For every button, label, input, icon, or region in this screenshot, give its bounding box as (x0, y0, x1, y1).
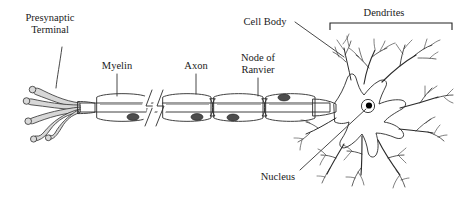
myelin-segment (97, 94, 147, 122)
schwann-cell-nucleus (191, 114, 203, 121)
label-cell-body: Cell Body (244, 16, 288, 27)
neuron-diagram-canvas: Presynaptic Terminal Myelin Axon Node of… (0, 0, 458, 202)
label-node-of-ranvier-line2: Ranvier (241, 64, 275, 75)
schwann-cell-nucleus (278, 94, 290, 101)
dendrites-bracket (330, 23, 452, 30)
dendrite-tree (294, 34, 453, 188)
label-axon: Axon (184, 60, 208, 71)
terminal-bouton (23, 98, 30, 105)
terminal-bouton (29, 86, 36, 93)
label-dendrites: Dendrites (364, 7, 405, 18)
terminal-bouton (30, 136, 36, 142)
nucleus-dot (366, 102, 372, 108)
axon-hillock (313, 99, 336, 116)
terminal-bouton (45, 135, 51, 141)
myelin-segment (214, 94, 263, 122)
myelin-segment (163, 94, 211, 122)
myelin-segment (266, 94, 315, 122)
cell-body-soma (334, 74, 406, 157)
neuron-diagram-figure: Presynaptic Terminal Myelin Axon Node of… (0, 0, 458, 202)
label-myelin: Myelin (102, 60, 133, 71)
terminal-bouton (25, 118, 32, 125)
axon-break-mark (141, 90, 168, 126)
label-presynaptic-terminal-line1: Presynaptic (26, 12, 75, 23)
label-nucleus: Nucleus (261, 171, 295, 182)
label-presynaptic-terminal-line2: Terminal (31, 24, 69, 35)
label-node-of-ranvier-line1: Node of (241, 52, 276, 63)
schwann-cell-nucleus (227, 114, 239, 121)
presynaptic-terminal-group (23, 86, 95, 142)
schwann-cell-nucleus (127, 114, 139, 121)
leader-cell-body (295, 22, 344, 57)
leader-presynaptic-terminal (56, 47, 62, 88)
leader-nucleus (300, 109, 366, 170)
